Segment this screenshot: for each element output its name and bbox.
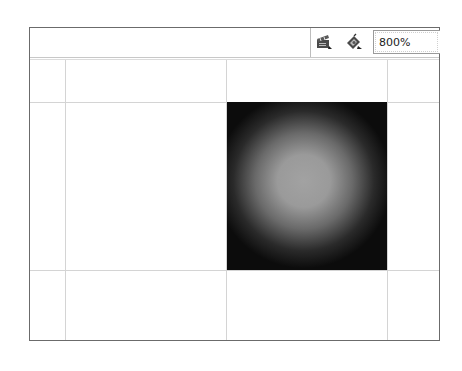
- radial-gradient-square[interactable]: [227, 102, 387, 270]
- toolbar-divider: [310, 28, 311, 57]
- edit-symbol-button[interactable]: [344, 32, 364, 52]
- edit-bar: 800%: [30, 28, 439, 58]
- edit-scene-button[interactable]: [314, 32, 334, 52]
- stage-window: 800%: [29, 27, 440, 341]
- zoom-level-value: 800%: [379, 36, 410, 49]
- stage-canvas[interactable]: [30, 60, 439, 340]
- zoom-level-field[interactable]: 800%: [373, 30, 440, 54]
- edit-symbol-icon: [345, 33, 363, 51]
- clapperboard-icon: [315, 33, 333, 51]
- guide-line-horizontal: [30, 270, 439, 271]
